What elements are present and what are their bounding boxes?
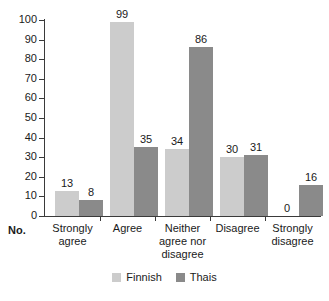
x-axis-tick (210, 217, 211, 221)
category-label-line: Neither (152, 222, 214, 235)
y-axis-title: No. (8, 224, 26, 236)
category-label: Agree (97, 222, 159, 235)
legend-swatch-icon (176, 273, 185, 282)
y-axis-tick-label: 20 (3, 171, 37, 182)
category-label-line: Disagree (207, 222, 269, 235)
category-label: Disagree (207, 222, 269, 235)
y-axis-tick-label: 0 (3, 210, 37, 221)
bar-value-label: 0 (272, 203, 302, 214)
category-label-line: Agree (97, 222, 159, 235)
y-axis-tick-label: 30 (3, 151, 37, 162)
bar-finnish (165, 149, 189, 216)
y-axis-tick-label: 50 (3, 112, 37, 123)
bar-value-label: 16 (296, 172, 326, 183)
category-label-line: disagree (152, 248, 214, 261)
plot-area: 138993534863031016 (45, 20, 320, 216)
category-label-line: Strongly (42, 222, 104, 235)
y-axis-tick-label: 100 (3, 14, 37, 25)
y-axis-tick-label: 60 (3, 92, 37, 103)
y-axis-labels: 0102030405060708090100 (0, 0, 37, 301)
bar-group: 3031 (210, 20, 265, 216)
bar-value-label: 99 (107, 9, 137, 20)
bar-group: 138 (45, 20, 100, 216)
legend-label: Thais (190, 272, 217, 283)
bar-chart: 0102030405060708090100 No. 1389935348630… (0, 0, 329, 301)
category-label-line: Strongly (262, 222, 324, 235)
y-axis-tick-label: 90 (3, 34, 37, 45)
category-label-line: agree nor (152, 235, 214, 248)
x-axis-tick (155, 217, 156, 221)
legend-label: Finnish (126, 272, 161, 283)
bar-value-label: 34 (162, 136, 192, 147)
chart-legend: FinnishThais (0, 272, 329, 283)
y-axis-tick-label: 80 (3, 53, 37, 64)
bar-group: 016 (265, 20, 320, 216)
legend-swatch-icon (112, 273, 121, 282)
x-axis-tick (265, 217, 266, 221)
category-label: Stronglydisagree (262, 222, 324, 248)
x-axis-line (44, 216, 321, 217)
y-axis-tick-label: 70 (3, 73, 37, 84)
y-axis-tick-label: 10 (3, 190, 37, 201)
bar-thais (299, 185, 323, 216)
legend-item-thais: Thais (176, 272, 217, 283)
category-label: Stronglyagree (42, 222, 104, 248)
y-axis-tick-label: 40 (3, 132, 37, 143)
legend-item-finnish: Finnish (112, 272, 161, 283)
bar-group: 9935 (100, 20, 155, 216)
bar-finnish (110, 22, 134, 216)
x-axis-tick (100, 217, 101, 221)
category-label-line: disagree (262, 235, 324, 248)
category-label: Neitheragree nordisagree (152, 222, 214, 261)
bar-finnish (220, 157, 244, 216)
category-label-line: agree (42, 235, 104, 248)
bar-group: 3486 (155, 20, 210, 216)
